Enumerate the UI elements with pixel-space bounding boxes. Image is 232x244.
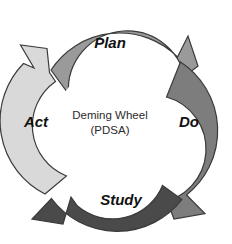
label-study: Study (100, 191, 142, 208)
center-subtitle: (PDSA) (91, 124, 130, 136)
label-plan: Plan (94, 34, 126, 51)
pdsa-wheel-svg: Plan Do Study Act Deming Wheel (PDSA) (0, 0, 232, 244)
wheel-hub (56, 68, 164, 176)
center-title: Deming Wheel (72, 109, 147, 121)
pdsa-cycle-diagram: Plan Do Study Act Deming Wheel (PDSA) (0, 0, 232, 244)
label-do: Do (179, 113, 199, 130)
label-act: Act (23, 113, 49, 130)
